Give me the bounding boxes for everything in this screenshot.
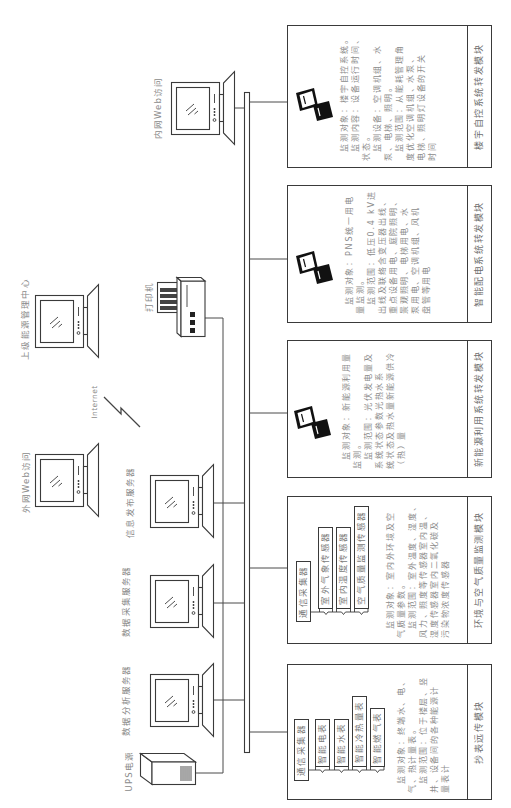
indicator-dot bbox=[78, 486, 80, 488]
description-line: 气质量参数。 bbox=[396, 502, 407, 638]
monitor-screen bbox=[156, 581, 189, 623]
data-collection-server-label: 数据采集服务器 bbox=[121, 561, 132, 641]
main-bus bbox=[245, 93, 250, 753]
description-line: 出线及联络含变压器出线、 bbox=[377, 190, 388, 314]
keyboard bbox=[203, 465, 214, 538]
monitor-stand bbox=[199, 488, 203, 515]
external-web-access-label: 外网Web访问 bbox=[21, 442, 32, 522]
component-box: 智能燃气表 bbox=[370, 708, 385, 767]
printer-button bbox=[190, 320, 195, 325]
printer-icon bbox=[157, 277, 206, 337]
ups-label: UPS电源 bbox=[124, 744, 135, 798]
computer-icon bbox=[150, 663, 214, 737]
description-line: 状态。 bbox=[361, 34, 372, 161]
description-paragraph: 监测范围：从能耗管理角 度优化空调机组、水泵、 电梯、照明灯设备的开关 时间 bbox=[394, 34, 438, 161]
monitor-stand bbox=[199, 687, 203, 714]
component-box: 空气质量监测传感器 bbox=[354, 506, 369, 609]
indicator-dot bbox=[193, 504, 195, 506]
module-building-automation: 监测对象：楼宇自控系统。 监测内容：设备运行时间、 状态。 监测设备：空调机组、… bbox=[287, 25, 492, 168]
module-title: 新能源利用系统转发模块 bbox=[467, 341, 491, 477]
component-box: 智能电表 bbox=[315, 719, 330, 767]
description-line: 监测对象：楼宇自控系统。 bbox=[339, 34, 350, 161]
monitor-stand bbox=[84, 467, 88, 494]
description-paragraph: 监测对象：室内外环境及空 气质量参数。 bbox=[385, 502, 407, 638]
upper-energy-center-label: 上级能源管理中心 bbox=[20, 269, 31, 369]
description-paragraph: 监测设备：空调机组、水 泵、电梯、照明。 bbox=[372, 34, 394, 161]
bracket-ticks bbox=[316, 767, 385, 770]
collector-box: 通信采集器 bbox=[294, 719, 309, 781]
description-line: 监测对象：终端水、电、 bbox=[396, 676, 407, 793]
description-paragraph: 监测对象：楼宇自控系统。 bbox=[339, 34, 350, 161]
description-line: 监测对象：室内外环境及空 bbox=[385, 502, 396, 638]
indicator-dot bbox=[193, 700, 195, 702]
description-line: 电梯、照明灯设备的开关 bbox=[416, 34, 427, 161]
description-line: 污染物浓度传感器 bbox=[440, 502, 451, 638]
workstation-icon bbox=[294, 405, 331, 439]
description-line: 泵用电、空调机组、风机 bbox=[410, 190, 421, 314]
component-box: 智能水表 bbox=[334, 719, 349, 767]
indicator-dot bbox=[78, 480, 80, 482]
module-power-distribution: 监测对象：PNS统一用电 量监测。 监测范围：低压0.4 kV进 出线及联络含变… bbox=[287, 185, 492, 323]
computer-icon bbox=[150, 564, 214, 638]
module-description: 监测对象：终端水、电、 气、热计量表。 监测范围：位于楼层、竖 井、设备间的各种… bbox=[396, 676, 451, 793]
bracket-line bbox=[310, 612, 368, 615]
keyboard bbox=[203, 664, 214, 737]
indicator-dot bbox=[214, 114, 216, 116]
component-box: 室内温度传感器 bbox=[336, 527, 351, 609]
indicator-dot bbox=[193, 706, 195, 708]
printer-side-face bbox=[177, 278, 205, 282]
computer-icon bbox=[35, 284, 99, 358]
description-line: 景观照明、电梯用电、水 bbox=[399, 190, 410, 314]
internet-label: Internet bbox=[89, 381, 100, 423]
description-line: 量表计 bbox=[440, 676, 451, 793]
computer-icon bbox=[35, 443, 99, 517]
description-line: 井、设备间的各种能源计 bbox=[429, 676, 440, 793]
bracket-line bbox=[308, 770, 384, 773]
description-paragraph: 监测范围：室外温度、湿度、 风力、照度等传感器室内温、 湿度传感器室内二氧化碳及… bbox=[407, 502, 451, 638]
keyboard bbox=[224, 72, 235, 145]
internal-web-access-label: 内网Web访问 bbox=[153, 68, 164, 148]
description-line: 气、热计量表。 bbox=[407, 676, 418, 793]
indicator-dot bbox=[193, 607, 195, 609]
module-description: 监测对象：新能源利用量 监测。 监测范围：光伏发电量及 系统状态参数光热水系 统… bbox=[341, 351, 407, 469]
collector-box: 通信采集器 bbox=[296, 561, 311, 622]
description-line: 度优化空调机组、水泵、 bbox=[405, 34, 416, 161]
bracket-ticks bbox=[320, 609, 369, 612]
description-line: 量监测。 bbox=[355, 190, 366, 314]
module-title: 环境与空气质量监测模块 bbox=[467, 497, 491, 643]
printer-button bbox=[190, 328, 195, 333]
info-publish-server-label: 信息发布服务器 bbox=[125, 462, 136, 542]
indicator-dot bbox=[78, 324, 80, 326]
lightning-icon bbox=[104, 397, 140, 427]
indicator-dot bbox=[193, 601, 195, 603]
printer-top-face bbox=[177, 278, 181, 337]
indicator-dot bbox=[193, 501, 195, 503]
printer-button bbox=[190, 312, 195, 317]
description-line: 监测内容：设备运行时间、 bbox=[350, 34, 361, 161]
indicator-dot bbox=[78, 327, 80, 329]
description-line: （热）量 bbox=[396, 351, 407, 469]
computer-icon bbox=[150, 464, 214, 538]
module-renewable-energy: 监测对象：新能源利用量 监测。 监测范围：光伏发电量及 系统状态参数光热水系 统… bbox=[287, 340, 492, 478]
monitor-screen bbox=[156, 680, 189, 722]
description-line: 盘管等用电 bbox=[421, 190, 432, 314]
energy-monitoring-network-diagram: UPS电源 数据分析服务器 数据采集服务器 bbox=[0, 0, 511, 808]
module-description: 监测对象：PNS统一用电 量监测。 监测范围：低压0.4 kV进 出线及联络含变… bbox=[344, 190, 432, 314]
description-line: 湿度传感器室内二氧化碳及 bbox=[429, 502, 440, 638]
description-paragraph: 监测范围：低压0.4 kV进 出线及联络含变压器出线、 重点设备用电、庭院照明、… bbox=[366, 190, 432, 314]
module-description: 监测对象：室内外环境及空 气质量参数。 监测范围：室外温度、湿度、 风力、照度等… bbox=[385, 502, 451, 638]
data-analysis-server-label: 数据分析服务器 bbox=[121, 660, 132, 740]
module-title: 抄表远传模块 bbox=[467, 665, 491, 799]
keyboard bbox=[88, 285, 99, 358]
description-line: 监测对象：新能源利用量 bbox=[341, 351, 352, 469]
keyboard bbox=[88, 444, 99, 517]
indicator-dot bbox=[214, 111, 216, 113]
description-line: 风力、照度等传感器室内温、 bbox=[418, 502, 429, 638]
computer-icon bbox=[171, 71, 235, 145]
workstation-icon bbox=[296, 87, 333, 121]
description-paragraph: 监测范围：光伏发电量及 系统状态参数光热水系 统状态及热水量新能源供冷 （热）量 bbox=[363, 351, 407, 469]
monitor-screen bbox=[156, 481, 189, 523]
description-paragraph: 监测范围：位于楼层、竖 井、设备间的各种能源计 量表计 bbox=[418, 676, 451, 793]
description-paragraph: 监测对象：PNS统一用电 量监测。 bbox=[344, 190, 366, 314]
indicator-dot bbox=[193, 703, 195, 705]
